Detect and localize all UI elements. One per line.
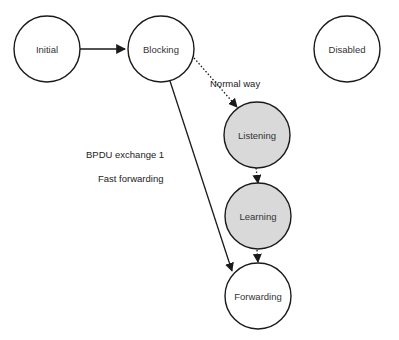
state-blocking: Blocking	[128, 16, 194, 82]
edge-label-normal-way: Normal way	[210, 78, 260, 89]
state-label-blocking: Blocking	[143, 44, 179, 55]
state-listening: Listening	[224, 102, 290, 168]
edge-blocking-to-forwarding	[170, 81, 232, 271]
state-label-disabled: Disabled	[329, 44, 366, 55]
state-disabled: Disabled	[314, 16, 380, 82]
state-initial: Initial	[14, 16, 80, 82]
state-forwarding: Forwarding	[225, 263, 291, 329]
edge-listening-to-learning	[256, 168, 258, 183]
edge-learning-to-forwarding	[257, 250, 258, 262]
state-learning: Learning	[225, 183, 291, 249]
state-label-learning: Learning	[240, 211, 277, 222]
edge-label-bpdu-exchange: BPDU exchange 1	[86, 149, 164, 160]
state-label-listening: Listening	[238, 130, 276, 141]
state-label-forwarding: Forwarding	[234, 291, 282, 302]
stp-state-diagram: Normal way BPDU exchange 1 Fast forwardi…	[0, 0, 399, 340]
state-label-initial: Initial	[36, 44, 58, 55]
edge-label-fast-forwarding: Fast forwarding	[98, 173, 163, 184]
